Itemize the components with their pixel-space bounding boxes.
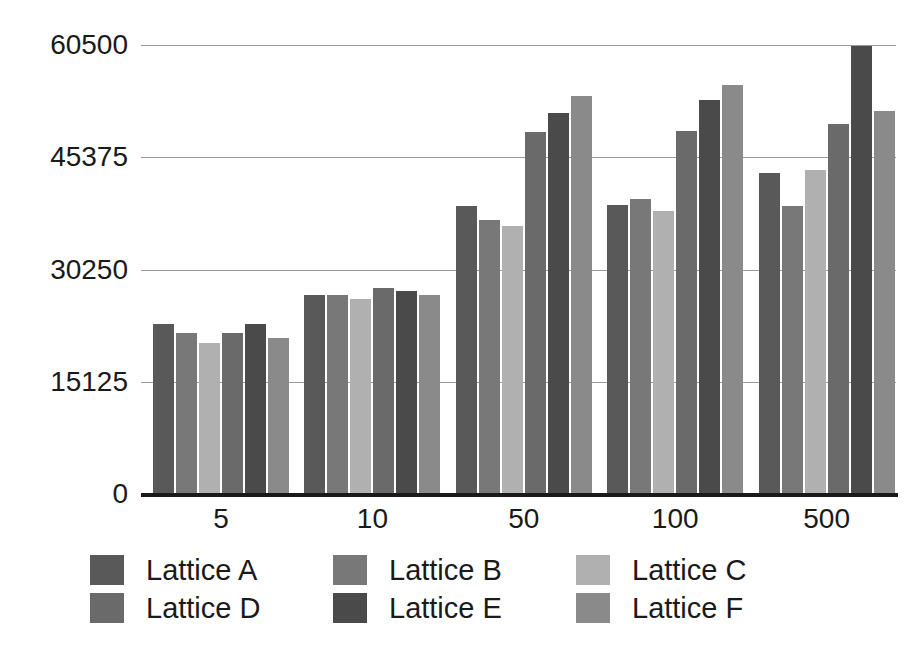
x-axis-line [141, 493, 898, 497]
y-tick-label: 30250 [8, 256, 128, 284]
y-tick-label: 0 [8, 480, 128, 508]
x-tick-label: 100 [652, 502, 699, 536]
x-tick-label: 5 [213, 502, 229, 536]
legend-swatch-icon [90, 593, 124, 623]
legend-swatch-icon [576, 593, 610, 623]
bar-chart: 015125302504537560500 51050100500 Lattic… [0, 0, 906, 656]
legend-swatch-icon [576, 555, 610, 585]
legend-item[interactable]: Lattice C [576, 551, 819, 589]
bar [607, 205, 628, 494]
legend-label: Lattice F [632, 594, 743, 623]
bar [373, 288, 394, 494]
legend-swatch-icon [333, 593, 367, 623]
bar [759, 173, 780, 494]
legend-item[interactable]: Lattice E [333, 589, 576, 627]
bar [456, 206, 477, 494]
bar [874, 111, 895, 494]
legend-item[interactable]: Lattice D [90, 589, 333, 627]
legend-label: Lattice D [146, 594, 260, 623]
x-tick-label: 500 [803, 502, 850, 536]
bar-group [759, 0, 895, 494]
y-tick-label: 60500 [8, 31, 128, 59]
bar [327, 295, 348, 494]
bar [396, 291, 417, 494]
bar [479, 220, 500, 494]
legend-item[interactable]: Lattice F [576, 589, 819, 627]
bars-layer [141, 0, 898, 494]
x-axis: 51050100500 [141, 502, 898, 542]
bar [502, 226, 523, 494]
legend-label: Lattice A [146, 556, 257, 585]
legend-label: Lattice B [389, 556, 502, 585]
bar-group [304, 0, 440, 494]
bar-group [456, 0, 592, 494]
bar [722, 85, 743, 494]
bar [268, 338, 289, 494]
bar [828, 124, 849, 494]
chart-legend: Lattice ALattice BLattice CLattice DLatt… [90, 551, 850, 627]
legend-label: Lattice C [632, 556, 746, 585]
bar [782, 206, 803, 494]
bar [630, 199, 651, 494]
bar [699, 100, 720, 494]
bar [304, 295, 325, 494]
bar [548, 113, 569, 494]
bar-group [607, 0, 743, 494]
legend-label: Lattice E [389, 594, 502, 623]
bar-group [153, 0, 289, 494]
bar [245, 324, 266, 494]
bar [199, 343, 220, 494]
x-tick-label: 10 [357, 502, 388, 536]
bar [153, 324, 174, 494]
y-tick-label: 15125 [8, 368, 128, 396]
bar [222, 333, 243, 494]
x-tick-label: 50 [508, 502, 539, 536]
bar [571, 96, 592, 494]
legend-item[interactable]: Lattice B [333, 551, 576, 589]
bar [805, 170, 826, 494]
legend-swatch-icon [333, 555, 367, 585]
bar [350, 299, 371, 494]
bar [851, 46, 872, 494]
legend-swatch-icon [90, 555, 124, 585]
legend-item[interactable]: Lattice A [90, 551, 333, 589]
bar [676, 131, 697, 494]
bar [176, 333, 197, 494]
bar [419, 295, 440, 494]
bar [653, 211, 674, 494]
y-tick-label: 45375 [8, 143, 128, 171]
bar [525, 132, 546, 494]
